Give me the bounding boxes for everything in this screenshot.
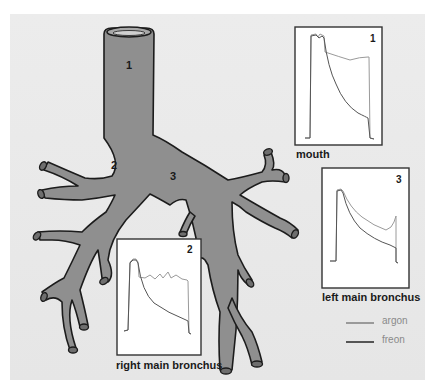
bronchial-tree-diagram: 1 2 3 1 mouth 3 left main bronchus 2 rig…: [0, 0, 435, 386]
region-label-3: 3: [170, 170, 176, 182]
trace-box-mouth: 1: [295, 27, 382, 145]
legend-label-argon: argon: [382, 315, 408, 326]
branch-tip: [179, 232, 187, 237]
trace-number-1: 1: [370, 33, 376, 44]
branch-tip: [283, 174, 289, 183]
trace-box-right-main-bronchus: 2: [117, 239, 201, 355]
branch-tip: [40, 292, 49, 303]
trace-caption-right-main-bronchus: right main bronchus: [116, 359, 222, 371]
trace-box-left-main-bronchus: 3: [322, 168, 409, 288]
trace-number-2: 2: [187, 244, 193, 255]
branch-tip: [69, 347, 78, 353]
trace-caption-left-main-bronchus: left main bronchus: [322, 291, 420, 303]
trachea-lumen: [113, 31, 145, 36]
legend-line-freon: [346, 341, 374, 343]
branch-tip: [80, 324, 89, 330]
region-label-2: 2: [111, 159, 117, 171]
trace-number-3: 3: [396, 174, 402, 185]
region-label-1: 1: [126, 59, 132, 71]
branch-tip: [252, 361, 263, 367]
trace-caption-mouth: mouth: [296, 148, 330, 160]
legend-label-freon: freon: [382, 334, 405, 345]
legend-line-argon: [346, 322, 374, 324]
branch-tip: [99, 276, 110, 286]
